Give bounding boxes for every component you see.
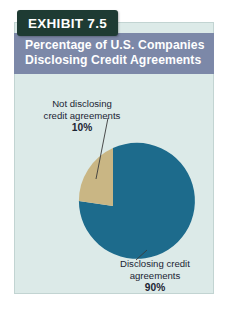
exhibit-tab-label: EXHIBIT 7.5 (28, 16, 107, 31)
exhibit-figure: EXHIBIT 7.5 Percentage of U.S. Companies… (0, 0, 234, 316)
exhibit-title-band: Percentage of U.S. Companies Disclosing … (14, 33, 214, 74)
pie-chart-plot-area: Not disclosing credit agreements 10% Dis… (14, 74, 214, 294)
callout-not-disclosing-percent: 10% (28, 122, 136, 134)
callout-disclosing-percent: 90% (99, 282, 211, 294)
exhibit-tab: EXHIBIT 7.5 (17, 10, 118, 36)
callout-not-disclosing: Not disclosing credit agreements 10% (28, 98, 136, 134)
callout-disclosing-line-2: agreements (99, 270, 211, 282)
callout-not-disclosing-line-1: Not disclosing (28, 98, 136, 110)
exhibit-title-line-2: Disclosing Credit Agreements (25, 53, 214, 68)
callout-not-disclosing-line-2: credit agreements (28, 110, 136, 122)
callout-disclosing-line-1: Disclosing credit (99, 258, 211, 270)
callout-disclosing: Disclosing credit agreements 90% (99, 258, 211, 294)
exhibit-title-line-1: Percentage of U.S. Companies (25, 38, 214, 53)
